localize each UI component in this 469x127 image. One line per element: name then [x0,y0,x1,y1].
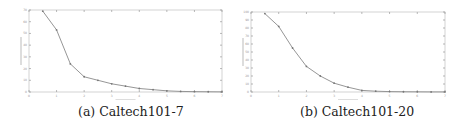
data-point-marker [333,82,335,84]
y-tick-label: 20 [245,74,249,78]
data-point-marker [264,13,266,15]
data-point-marker [389,91,391,93]
y-tick-label: 60 [245,42,249,46]
series-line [265,14,445,92]
data-point-marker [375,90,377,92]
line-chart-caltech101-20: 012345670102030405060708090100 [0,0,469,100]
caption-caltech101-20: (b) Caltech101-20 [300,104,414,119]
y-tick-label: 0 [247,90,249,94]
y-tick-label: 80 [245,26,249,30]
data-point-marker [319,75,321,77]
x-tick-label: 4 [361,94,363,98]
y-tick-label: 100 [243,10,249,14]
data-point-marker [430,91,432,93]
y-tick-label: 40 [245,58,249,62]
x-tick-label: 3 [333,94,335,98]
x-tick-label: 5 [389,94,391,98]
data-point-marker [416,91,418,93]
data-point-marker [306,66,308,68]
x-tick-label: 6 [416,94,418,98]
x-tick-label: 7 [444,94,446,98]
panel-caltech101-20: 012345670102030405060708090100 (b) Calte… [0,0,469,127]
data-point-marker [444,91,446,93]
x-tick-label: 1 [278,94,280,98]
data-point-marker [403,91,405,93]
y-tick-label: 90 [245,18,249,22]
plot-frame [251,12,445,92]
data-point-marker [278,26,280,28]
y-tick-label: 70 [245,34,249,38]
y-tick-label: 10 [245,82,249,86]
x-tick-label: 2 [305,94,307,98]
x-tick-label: 0 [250,94,252,98]
data-point-marker [292,47,294,49]
y-tick-label: 50 [245,50,249,54]
data-point-marker [361,90,363,92]
data-point-marker [347,86,349,88]
y-tick-label: 30 [245,66,249,70]
